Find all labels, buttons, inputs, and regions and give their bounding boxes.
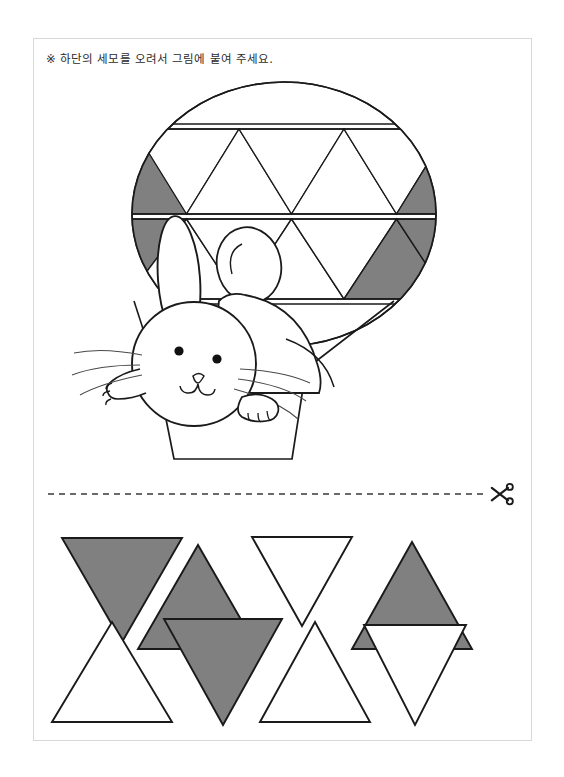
rabbit-eye-left (174, 346, 183, 355)
cutout-triangle-t6[interactable] (164, 619, 282, 725)
rabbit-left-arm (107, 369, 146, 399)
rabbit-eye-right (212, 354, 221, 363)
worksheet-page: ※ 하단의 세모를 오려서 그림에 붙여 주세요. (33, 38, 532, 741)
cut-line-group (48, 484, 513, 505)
scissors-icon (492, 484, 513, 505)
cutout-triangle-t7[interactable] (260, 622, 370, 722)
cutout-triangle-t8[interactable] (364, 625, 466, 725)
balloon-band-top (79, 129, 501, 214)
cutout-triangle-t3[interactable] (252, 537, 352, 626)
worksheet-artwork (34, 39, 533, 742)
balloon-band-middle (64, 219, 504, 299)
cutout-row-1 (52, 619, 466, 725)
